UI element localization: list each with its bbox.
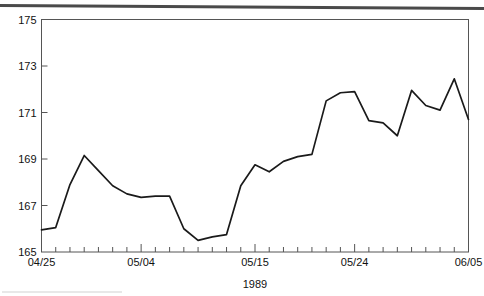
y-tick-label: 171 xyxy=(18,107,36,119)
x-tick-label: 05/15 xyxy=(241,256,269,268)
plot-frame xyxy=(42,20,469,253)
line-chart: 165167169171173175 04/2505/0405/1505/240… xyxy=(0,0,484,296)
data-series-line xyxy=(42,79,469,241)
plot-border xyxy=(42,20,469,253)
x-tick-label: 06/05 xyxy=(455,256,483,268)
y-tick-label: 169 xyxy=(18,153,36,165)
y-tick-label: 175 xyxy=(18,14,36,26)
x-axis-labels: 04/2505/0405/1505/2406/05 xyxy=(28,256,483,268)
y-tick-label: 167 xyxy=(18,200,36,212)
x-axis-ticks xyxy=(42,244,469,252)
chart-page: 165167169171173175 04/2505/0405/1505/240… xyxy=(0,0,484,296)
y-axis: 165167169171173175 xyxy=(18,14,47,259)
x-tick-label: 05/04 xyxy=(127,256,155,268)
y-tick-label: 173 xyxy=(18,60,36,72)
scan-smudge xyxy=(2,291,122,293)
x-axis-title: 1989 xyxy=(243,278,267,290)
x-tick-label: 05/24 xyxy=(341,256,369,268)
x-tick-label: 04/25 xyxy=(28,256,56,268)
